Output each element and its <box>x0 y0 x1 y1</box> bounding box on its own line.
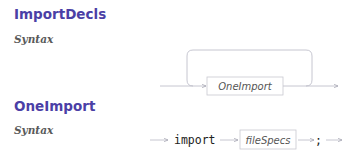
oneimport-label: OneImport <box>218 81 273 92</box>
semicolon-terminal: ; <box>315 133 322 147</box>
importdecls-diagram: OneImport <box>160 50 338 95</box>
import-keyword: import <box>174 133 216 147</box>
syntax-diagrams: OneImport import fileSpecs ; <box>0 0 353 168</box>
oneimport-diagram: import fileSpecs ; <box>150 130 342 149</box>
filespecs-label: fileSpecs <box>246 135 291 146</box>
